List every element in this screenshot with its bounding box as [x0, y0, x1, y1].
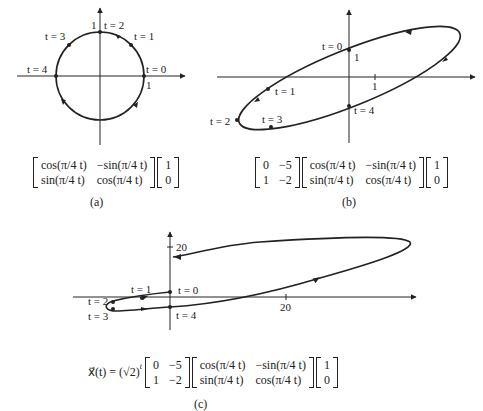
- matrix-cell: sin(π/4 t): [200, 373, 246, 387]
- point-t2: [111, 300, 115, 304]
- label-t0: t = 0: [322, 40, 343, 52]
- matrix-cell: 0: [263, 158, 269, 172]
- coefficient-matrix: 0 −5 1 −2: [145, 357, 190, 388]
- matrix-cell: −sin(π/4 t): [255, 358, 306, 372]
- point-t0: [168, 290, 172, 294]
- matrix-cell: 0: [153, 358, 159, 372]
- panel-a-plot: t = 0 t = 1 t = 2 t = 3 t = 4 1 1: [17, 8, 185, 145]
- caption-a: (a): [90, 195, 103, 210]
- label-t2: t = 2: [210, 115, 230, 127]
- point-t4: [54, 74, 58, 78]
- direction-arrow-icon: [174, 254, 181, 260]
- rotation-matrix: cos(π/4 t) −sin(π/4 t) sin(π/4 t) cos(π/…: [192, 357, 314, 388]
- matrix-cell: cos(π/4 t): [200, 358, 246, 372]
- formula-b: 0 −5 1 −2 cos(π/4 t) −sin(π/4 t) sin(π/4…: [254, 157, 449, 188]
- matrix-cell: cos(π/4 t): [41, 158, 87, 172]
- point-t4: [168, 305, 172, 309]
- label-t0: t = 0: [178, 284, 199, 296]
- matrix-cell: cos(π/4 t): [255, 373, 306, 387]
- matrix-cell: −5: [279, 158, 292, 172]
- label-t4: t = 4: [176, 309, 197, 321]
- vector-cell: 1: [434, 158, 440, 172]
- matrix-cell: cos(π/4 t): [366, 173, 417, 187]
- matrix-cell: −sin(π/4 t): [97, 158, 148, 172]
- label-t3: t = 3: [262, 113, 283, 125]
- initial-vector: 1 0: [316, 357, 338, 388]
- initial-vector: 1 0: [426, 157, 448, 188]
- point-t4: [347, 104, 351, 108]
- panel-b-plot: t = 0 t = 1 t = 2 t = 3 t = 4 1 1: [210, 7, 475, 148]
- point-t3: [111, 307, 115, 311]
- vector-cell: 0: [434, 173, 440, 187]
- direction-arrow-icon: [141, 307, 148, 311]
- point-t1: [266, 87, 270, 91]
- label-t2: t = 2: [88, 295, 108, 307]
- tick-label-x: 1: [146, 79, 152, 91]
- caption-c: (c): [194, 397, 207, 411]
- matrix-cell: cos(π/4 t): [310, 158, 356, 172]
- direction-arrow-icon: [115, 34, 121, 39]
- vector-cell: 1: [165, 158, 171, 172]
- matrix-cell: cos(π/4 t): [97, 173, 148, 187]
- formula-a: cos(π/4 t) −sin(π/4 t) sin(π/4 t) cos(π/…: [32, 157, 180, 188]
- vector-cell: 1: [324, 358, 330, 372]
- point-t2: [235, 118, 239, 122]
- matrix-cell: −5: [169, 358, 182, 372]
- matrix-cell: sin(π/4 t): [310, 173, 356, 187]
- formula-prefix: x⃗(t) = (√2): [88, 365, 140, 380]
- matrix-cell: −2: [169, 373, 182, 387]
- point-t1: [129, 43, 133, 47]
- label-t4: t = 4: [354, 104, 375, 116]
- coefficient-matrix: 0 −5 1 −2: [255, 157, 300, 188]
- matrix-cell: −sin(π/4 t): [366, 158, 417, 172]
- tick-label-x: 1: [372, 80, 378, 92]
- point-t3: [67, 43, 71, 47]
- label-t1: t = 1: [131, 283, 151, 295]
- vector-cell: 0: [324, 373, 330, 387]
- label-t3: t = 3: [88, 310, 109, 322]
- matrix-cell: 1: [263, 173, 269, 187]
- tick-label-x: 20: [280, 301, 292, 313]
- vector-cell: 0: [165, 173, 171, 187]
- rotation-matrix: cos(π/4 t) −sin(π/4 t) sin(π/4 t) cos(π/…: [33, 157, 155, 188]
- matrix-cell: −2: [279, 173, 292, 187]
- label-t3: t = 3: [45, 30, 66, 42]
- figure-canvas: t = 0 t = 1 t = 2 t = 3 t = 4 1 1 t = 0 …: [0, 0, 483, 411]
- point-t2: [98, 30, 102, 34]
- tick-label-y: 1: [354, 51, 360, 63]
- matrix-cell: 1: [153, 373, 159, 387]
- point-t1: [140, 296, 144, 300]
- trajectory-spiral: [106, 237, 410, 311]
- tick-label-y: 1: [91, 19, 97, 31]
- formula-exponent: t: [140, 362, 142, 371]
- label-t0: t = 0: [146, 63, 167, 75]
- panel-c-plot: t = 0 t = 1 t = 2 t = 3 t = 4 20 20: [73, 232, 416, 330]
- tick-label-y: 20: [176, 241, 188, 253]
- label-t4: t = 4: [27, 63, 48, 75]
- label-t2: t = 2: [104, 19, 124, 31]
- matrix-cell: sin(π/4 t): [41, 173, 87, 187]
- point-t0: [347, 48, 351, 52]
- label-t1: t = 1: [275, 85, 295, 97]
- initial-vector: 1 0: [157, 157, 179, 188]
- label-t1: t = 1: [134, 30, 154, 42]
- rotation-matrix: cos(π/4 t) −sin(π/4 t) sin(π/4 t) cos(π/…: [302, 157, 424, 188]
- point-t3: [269, 125, 273, 129]
- formula-c: x⃗(t) = (√2) t 0 −5 1 −2 cos(π/4 t) −sin…: [88, 357, 339, 388]
- caption-b: (b): [342, 195, 356, 210]
